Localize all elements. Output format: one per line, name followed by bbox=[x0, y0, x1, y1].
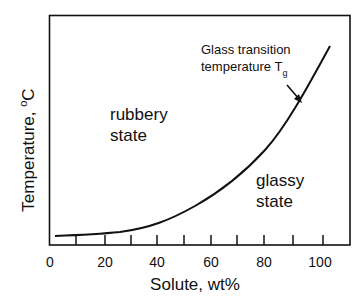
svg-text:temperature Tg: temperature Tg bbox=[201, 59, 287, 78]
tg-arrow bbox=[287, 85, 302, 103]
x-tick-label: 40 bbox=[149, 254, 165, 270]
glassy-state-label: glassy state bbox=[256, 171, 305, 211]
rubbery-state-label: rubbery state bbox=[110, 105, 168, 145]
y-axis-label-unit: C bbox=[19, 88, 38, 100]
tg-annotation: Glass transition temperature Tg bbox=[201, 42, 291, 78]
svg-text:Temperature, oC: Temperature, oC bbox=[17, 88, 38, 211]
x-tick-label: 60 bbox=[203, 254, 219, 270]
tg-subscript: g bbox=[282, 68, 287, 78]
rubbery-line2: state bbox=[110, 126, 147, 145]
x-tick-label: 0 bbox=[46, 254, 54, 270]
tg-annotation-line2: temperature T bbox=[201, 59, 282, 74]
rubbery-line1: rubbery bbox=[110, 105, 168, 124]
glassy-line1: glassy bbox=[256, 171, 305, 190]
x-tick-label: 80 bbox=[256, 254, 272, 270]
x-axis-tick-labels: 0 20 40 60 80 100 bbox=[46, 254, 332, 270]
y-axis-label-main: Temperature, bbox=[19, 107, 38, 212]
tg-annotation-line1: Glass transition bbox=[201, 42, 291, 57]
x-axis-label: Solute, wt% bbox=[150, 275, 240, 294]
glassy-line2: state bbox=[256, 192, 293, 211]
x-tick-label: 100 bbox=[308, 254, 332, 270]
x-axis-ticks bbox=[76, 235, 323, 245]
y-axis-label: Temperature, oC bbox=[17, 88, 38, 211]
x-tick-label: 20 bbox=[97, 254, 113, 270]
glass-transition-chart: 0 20 40 60 80 100 Solute, wt% Temperatur… bbox=[0, 0, 364, 303]
plot-frame bbox=[50, 16, 351, 246]
